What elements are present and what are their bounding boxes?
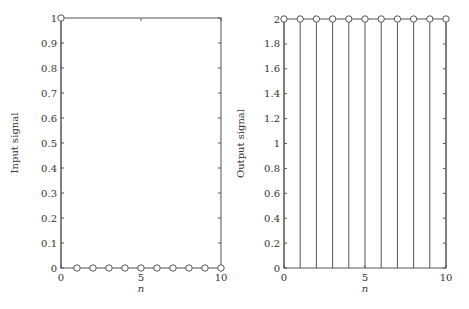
stem-marker: [362, 16, 368, 22]
stem-marker: [74, 265, 80, 271]
x-tick-label: 0: [58, 272, 64, 283]
y-axis-label: Input signal: [9, 113, 20, 174]
y-tick-label: 1: [274, 138, 280, 149]
y-tick-label: 0: [274, 263, 280, 274]
stem-marker: [106, 265, 112, 271]
y-tick-label: 1: [51, 13, 57, 24]
stem-marker: [281, 16, 287, 22]
y-tick-label: 0.4: [264, 213, 280, 224]
stem-marker: [329, 16, 335, 22]
y-tick-label: 0.8: [41, 63, 57, 74]
x-axis-label: n: [362, 283, 368, 294]
y-tick-label: 0.6: [41, 113, 57, 124]
y-axis-label: Output signal: [235, 109, 246, 178]
chart-canvas: 00.10.20.30.40.50.60.70.80.910510nInput …: [0, 0, 469, 309]
y-tick-label: 0.5: [41, 138, 57, 149]
y-tick-label: 0.7: [41, 88, 57, 99]
stem-marker: [122, 265, 128, 271]
y-tick-label: 0.9: [41, 38, 57, 49]
y-tick-label: 1.6: [264, 63, 280, 74]
axes-box: [61, 18, 221, 268]
y-tick-label: 0.3: [41, 188, 57, 199]
stem-marker: [202, 265, 208, 271]
y-tick-label: 0.4: [41, 163, 57, 174]
stem-marker: [378, 16, 384, 22]
y-tick-label: 0.1: [41, 238, 57, 249]
y-tick-label: 0.2: [264, 238, 280, 249]
stem-marker: [410, 16, 416, 22]
stem-marker: [58, 15, 64, 21]
x-axis-label: n: [138, 283, 144, 294]
stem-marker: [313, 16, 319, 22]
stem-marker: [443, 16, 449, 22]
y-tick-label: 0.2: [41, 213, 57, 224]
stem-marker: [297, 16, 303, 22]
y-tick-label: 1.4: [264, 88, 280, 99]
y-tick-label: 2: [274, 14, 280, 25]
stem-marker: [346, 16, 352, 22]
x-tick-label: 10: [440, 272, 453, 283]
stem-marker: [90, 265, 96, 271]
y-tick-label: 1.2: [264, 113, 280, 124]
stem-marker: [218, 265, 224, 271]
x-tick-label: 5: [138, 272, 144, 283]
stem-marker: [427, 16, 433, 22]
stem-marker: [394, 16, 400, 22]
x-tick-label: 5: [362, 272, 368, 283]
y-tick-label: 1.8: [264, 38, 280, 49]
y-tick-label: 0.6: [264, 188, 280, 199]
y-tick-label: 0: [51, 263, 57, 274]
y-tick-label: 0.8: [264, 163, 280, 174]
x-tick-label: 10: [215, 272, 228, 283]
stem-marker: [170, 265, 176, 271]
input-signal-plot: 00.10.20.30.40.50.60.70.80.910510nInput …: [9, 13, 227, 295]
output-signal-plot: 00.20.40.60.811.21.41.61.820510nOutput s…: [235, 14, 452, 295]
stem-marker: [154, 265, 160, 271]
stem-marker: [138, 265, 144, 271]
x-tick-label: 0: [281, 272, 287, 283]
stem-marker: [186, 265, 192, 271]
